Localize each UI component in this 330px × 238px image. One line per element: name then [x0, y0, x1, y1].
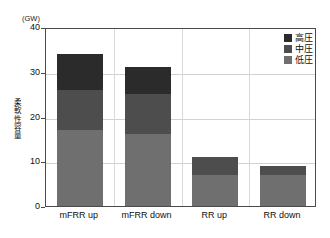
bar-segment [192, 175, 238, 206]
bar-segment [125, 94, 171, 134]
y-tick-label: 10 [10, 156, 40, 166]
chart-legend: 高圧中圧低圧 [284, 33, 313, 65]
y-tick-mark [41, 207, 45, 208]
legend-label: 中圧 [295, 44, 313, 54]
category-separator [182, 29, 183, 206]
y-tick-label: 40 [10, 22, 40, 32]
y-tick-label: 20 [10, 112, 40, 122]
bar-segment [57, 54, 103, 90]
bar-mfrr-down[interactable] [125, 67, 171, 206]
bar-segment [125, 134, 171, 206]
legend-swatch-icon [284, 56, 292, 64]
bar-segment [57, 90, 103, 130]
y-tick-label: 30 [10, 67, 40, 77]
legend-item[interactable]: 中圧 [284, 44, 313, 54]
bar-mfrr-up[interactable] [57, 54, 103, 206]
legend-item[interactable]: 高圧 [284, 33, 313, 43]
legend-label: 低圧 [295, 55, 313, 65]
x-tick-label: RR down [239, 210, 325, 220]
bar-rr-up[interactable] [192, 157, 238, 206]
bar-segment [125, 67, 171, 94]
stacked-bar-chart: (GW) 柔軟性容量 010203040 mFRR upmFRR downRR … [0, 0, 330, 238]
bar-segment [192, 157, 238, 175]
bar-segment [260, 175, 306, 206]
category-separator [249, 29, 250, 206]
bar-segment [260, 166, 306, 175]
plot-area [45, 28, 316, 207]
category-separator [114, 29, 115, 206]
bar-rr-down[interactable] [260, 166, 306, 206]
legend-swatch-icon [284, 34, 292, 42]
bar-segment [57, 130, 103, 206]
legend-label: 高圧 [295, 33, 313, 43]
legend-item[interactable]: 低圧 [284, 55, 313, 65]
legend-swatch-icon [284, 45, 292, 53]
